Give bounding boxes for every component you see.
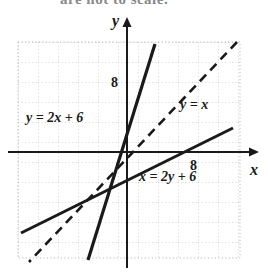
figure-container: are not to scale. y x 8 [0, 0, 268, 273]
grid-area [18, 42, 240, 258]
y-axis-tick-label-8: 8 [111, 76, 118, 90]
y-axis-label: y [112, 13, 119, 29]
equation-label-y-equals-2x-plus-6: y = 2x + 6 [26, 111, 83, 125]
equation-label-y-equals-x: y = x [180, 98, 208, 112]
equation-label-x-equals-2y-plus-6: x = 2y + 6 [139, 170, 196, 184]
x-axis-label: x [250, 162, 258, 178]
coordinate-graph [0, 0, 268, 273]
